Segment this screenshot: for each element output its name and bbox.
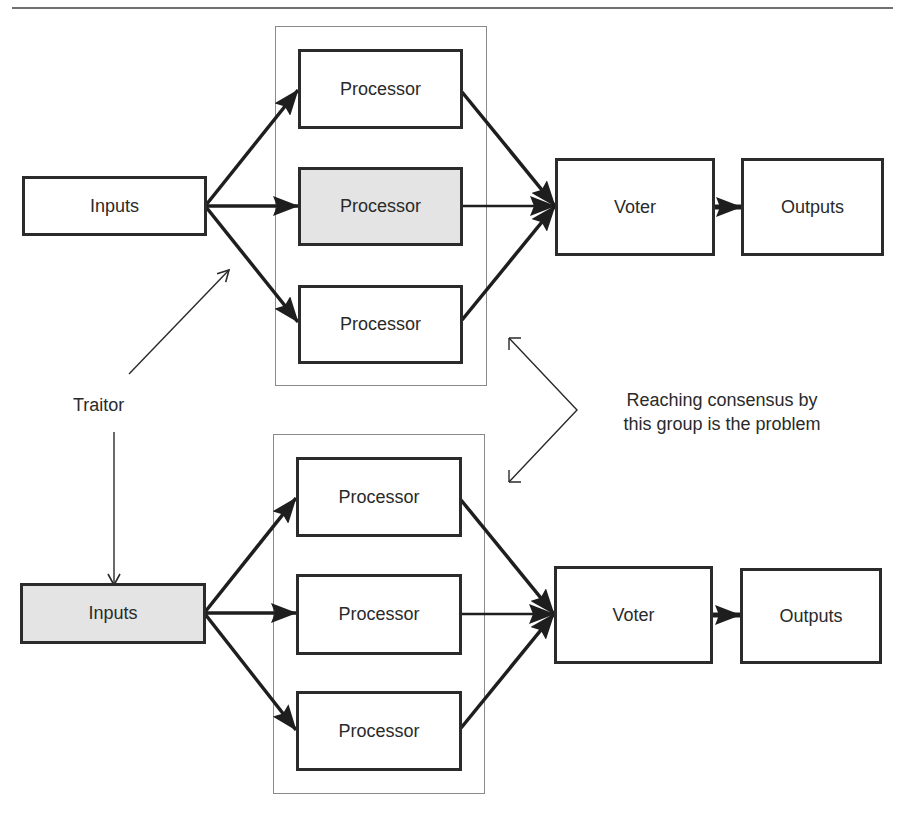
consensus-note: Reaching consensus by this group is the … [602, 388, 842, 436]
processor-box-bottom-2: Processor [296, 574, 462, 655]
inputs-box-bottom-faulty: Inputs [20, 583, 206, 644]
processor-box-top-2-faulty: Processor [298, 167, 463, 246]
processor-box-top-3: Processor [298, 285, 463, 364]
inputs-box-top: Inputs [22, 176, 207, 236]
outputs-box-bottom: Outputs [740, 568, 882, 664]
consensus-note-line-2: this group is the problem [602, 412, 842, 436]
traitor-label: Traitor [73, 393, 124, 417]
processor-box-bottom-3: Processor [296, 691, 462, 771]
processor-box-bottom-1: Processor [296, 457, 462, 537]
voter-box-top: Voter [555, 158, 715, 256]
outputs-box-top: Outputs [741, 158, 884, 256]
processor-box-top-1: Processor [298, 49, 463, 129]
consensus-note-line-1: Reaching consensus by [602, 388, 842, 412]
voter-box-bottom: Voter [554, 566, 713, 664]
